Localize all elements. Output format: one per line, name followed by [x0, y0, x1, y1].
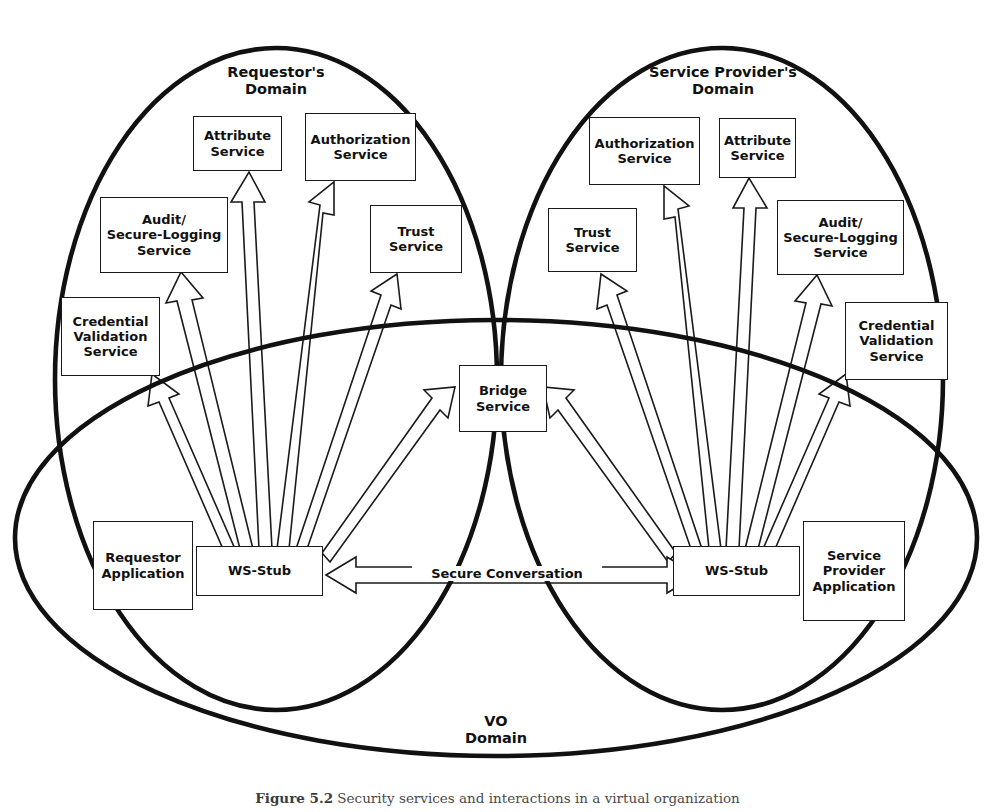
secure-conversation-label: Secure Conversation [412, 566, 602, 581]
node-left-audit-secure-logging-service[interactable]: Audit/ Secure-Logging Service [100, 197, 228, 273]
node-left-authorization-service[interactable]: Authorization Service [305, 113, 416, 181]
node-right-service-provider-application[interactable]: Service Provider Application [803, 521, 905, 621]
node-right-credential-validation-service[interactable]: Credential Validation Service [845, 302, 948, 380]
node-right-trust-service[interactable]: Trust Service [548, 208, 637, 272]
node-left-requestor-application[interactable]: Requestor Application [93, 521, 193, 610]
requestor-domain-label: Requestor's Domain [186, 64, 366, 99]
node-left-attribute-service[interactable]: Attribute Service [193, 116, 282, 171]
provider-domain-label: Service Provider's Domain [608, 64, 838, 99]
node-right-audit-secure-logging-service[interactable]: Audit/ Secure-Logging Service [777, 200, 904, 275]
node-right-ws-stub[interactable]: WS-Stub [673, 546, 800, 596]
figure-canvas: Requestor's Domain Service Provider's Do… [0, 0, 995, 812]
node-left-ws-stub[interactable]: WS-Stub [196, 546, 323, 596]
node-right-authorization-service[interactable]: Authorization Service [589, 117, 700, 185]
node-left-credential-validation-service[interactable]: Credential Validation Service [61, 297, 160, 376]
figure-caption-label: Figure 5.2 [255, 790, 333, 806]
vo-domain-label: VO Domain [426, 713, 566, 748]
node-left-trust-service[interactable]: Trust Service [370, 205, 462, 273]
figure-caption-text: Security services and interactions in a … [337, 790, 739, 806]
figure-caption: Figure 5.2 Security services and interac… [0, 790, 995, 806]
node-right-attribute-service[interactable]: Attribute Service [719, 118, 796, 178]
node-bridge-service[interactable]: Bridge Service [459, 365, 547, 432]
